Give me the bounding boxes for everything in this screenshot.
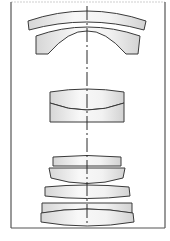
lens-element-2 (36, 27, 140, 54)
lens-diagram (0, 0, 170, 241)
